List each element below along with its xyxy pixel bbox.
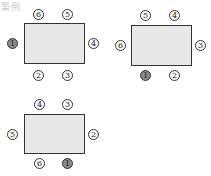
seat-left: 6: [115, 40, 126, 51]
seat-bottom-left: 2: [33, 70, 44, 81]
figure-label: 築例: [1, 0, 21, 13]
seat-bottom-right: 3: [62, 70, 73, 81]
seat-bottom-right: 1: [62, 158, 73, 169]
seat-left: 1: [7, 38, 18, 49]
seat-top-left: 5: [140, 10, 151, 21]
seat-right: 2: [88, 129, 99, 140]
seat-bottom-left: 1: [140, 70, 151, 81]
table: [24, 114, 85, 154]
seat-right: 3: [195, 40, 206, 51]
seat-left: 5: [7, 129, 18, 140]
table: [24, 23, 85, 64]
seat-top-right: 5: [62, 9, 73, 20]
seat-top-right: 3: [62, 99, 73, 110]
seat-top-left: 4: [34, 99, 45, 110]
seat-top-left: 6: [33, 9, 44, 20]
seat-bottom-right: 2: [169, 70, 180, 81]
seat-right: 4: [88, 38, 99, 49]
table: [131, 25, 192, 66]
seat-top-right: 4: [169, 10, 180, 21]
seat-bottom-left: 6: [34, 158, 45, 169]
